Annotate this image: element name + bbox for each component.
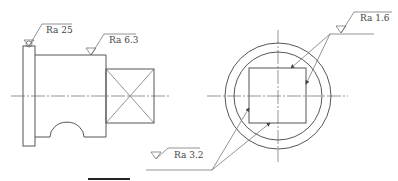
roughness-symbol-ra25: Ra 25	[24, 24, 73, 47]
side-view	[11, 46, 170, 146]
ra16-label: Ra 1.6	[360, 13, 390, 23]
roughness-symbol-ra63: Ra 6.3	[86, 34, 139, 55]
inscribed-square	[249, 68, 306, 123]
drawing-canvas: Ra 25 Ra 6.3 Ra 1.6 Ra 3.2	[0, 0, 398, 181]
ra32-label: Ra 3.2	[174, 150, 204, 160]
ra25-label: Ra 25	[46, 25, 73, 35]
ra63-label: Ra 6.3	[109, 35, 139, 45]
end-view	[207, 30, 348, 162]
roughness-symbol-ra32: Ra 3.2	[146, 108, 270, 170]
leader-ra16-top	[291, 34, 330, 68]
leader-ra32-left	[212, 108, 249, 170]
